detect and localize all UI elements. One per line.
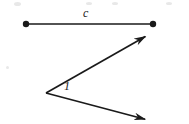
angle-lower-ray	[46, 93, 145, 119]
scan-speck	[6, 66, 9, 69]
figure-canvas	[0, 0, 189, 124]
segment-right-endpoint-dot	[150, 21, 156, 27]
segment-left-endpoint-dot	[23, 21, 29, 27]
scan-speck	[112, 2, 118, 5]
scan-speck	[14, 2, 21, 6]
angle-upper-ray	[46, 36, 145, 93]
segment-c-group	[23, 21, 156, 27]
scan-speck	[166, 2, 172, 5]
segment-label-c: c	[83, 7, 88, 19]
angle-label-1: 1	[64, 80, 70, 92]
scan-speck	[86, 2, 92, 5]
geometry-figure: c 1	[0, 0, 189, 124]
angle-group	[46, 36, 145, 119]
